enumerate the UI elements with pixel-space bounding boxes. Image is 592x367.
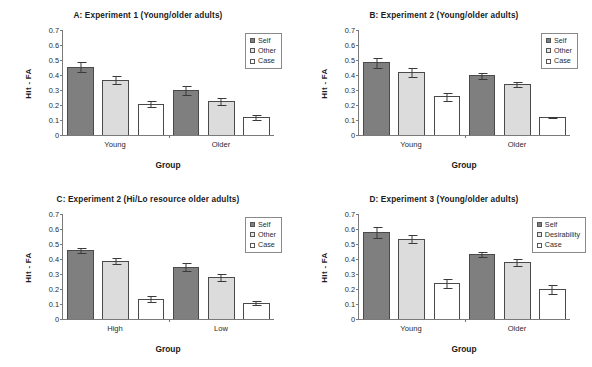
y-tick-label: 0.2 xyxy=(345,101,355,110)
y-tick-mark xyxy=(60,135,63,136)
error-bar xyxy=(221,274,222,282)
x-axis-label: Group xyxy=(358,344,570,354)
y-tick-mark xyxy=(60,319,63,320)
bar-other-young xyxy=(398,72,425,135)
y-tick-label: 0.7 xyxy=(345,210,355,219)
error-bar xyxy=(256,115,257,121)
x-tick-label: Young xyxy=(358,324,464,333)
bar-other-low xyxy=(208,277,235,319)
bar-other-older xyxy=(504,84,531,135)
y-tick-label: 0.7 xyxy=(345,26,355,35)
bar-slot xyxy=(429,30,464,135)
legend-swatch-other-icon xyxy=(250,232,255,237)
legend-item-self[interactable]: Self xyxy=(537,221,580,228)
y-tick-label: 0.6 xyxy=(345,41,355,50)
legend-item-other[interactable]: Other xyxy=(250,231,276,238)
legend-label: Case xyxy=(554,57,571,64)
error-bar xyxy=(411,235,412,244)
chart-panel-c: C: Experiment 2 (Hi/Lo resource older ad… xyxy=(0,184,296,367)
error-bar xyxy=(186,263,187,271)
y-tick-label: 0.7 xyxy=(49,210,59,219)
error-bar xyxy=(552,285,553,295)
x-tick-label: Older xyxy=(168,140,274,149)
error-bar xyxy=(446,279,447,288)
bar-group-young xyxy=(359,30,465,135)
legend-item-case[interactable]: Case xyxy=(546,57,572,64)
legend-item-self[interactable]: Self xyxy=(250,37,276,44)
bar-other-older xyxy=(208,101,235,135)
plot-area: 0.70.60.50.40.30.20.10 xyxy=(62,30,274,136)
x-tick-label: Older xyxy=(464,324,570,333)
bar-self-young xyxy=(363,232,390,319)
legend-item-self[interactable]: Self xyxy=(250,221,276,228)
bar-case-low xyxy=(243,303,270,320)
error-bar xyxy=(256,301,257,306)
bar-slot xyxy=(465,30,500,135)
error-bar xyxy=(115,76,116,85)
y-tick-label: 0.4 xyxy=(345,71,355,80)
panel-title: A: Experiment 1 (Young/older adults) xyxy=(0,11,296,20)
y-tick-label: 0 xyxy=(55,131,59,140)
y-tick-label: 0.4 xyxy=(345,255,355,264)
legend-item-self[interactable]: Self xyxy=(546,37,572,44)
legend-item-other[interactable]: Other xyxy=(250,47,276,54)
y-tick-mark xyxy=(356,319,359,320)
y-tick-label: 0 xyxy=(351,131,355,140)
bar-slot xyxy=(394,214,429,319)
legend-label: Self xyxy=(554,37,566,44)
bar-slot xyxy=(133,30,168,135)
y-tick-label: 0.1 xyxy=(345,116,355,125)
legend-item-case[interactable]: Case xyxy=(250,57,276,64)
legend-swatch-other-icon xyxy=(250,48,255,53)
y-axis-label-text: Hit - FA xyxy=(24,68,33,98)
y-axis-label: Hit - FA xyxy=(318,30,330,136)
legend-item-desirability[interactable]: Desirability xyxy=(537,231,580,238)
legend-label: Other xyxy=(554,47,572,54)
legend-label: Case xyxy=(258,241,275,248)
legend-swatch-case-icon xyxy=(250,59,255,64)
chart-legend: SelfOtherCase xyxy=(245,33,282,69)
bar-self-young xyxy=(363,62,390,135)
bar-group-high xyxy=(63,214,169,319)
y-tick-label: 0.5 xyxy=(49,240,59,249)
legend-item-other[interactable]: Other xyxy=(546,47,572,54)
legend-swatch-case-icon xyxy=(250,243,255,248)
legend-swatch-self-icon xyxy=(546,38,551,43)
bar-other-high xyxy=(102,261,129,320)
y-tick-label: 0.5 xyxy=(49,56,59,65)
group-separator-tick xyxy=(169,319,170,322)
y-tick-label: 0.3 xyxy=(345,270,355,279)
error-bar xyxy=(517,82,518,88)
legend-label: Case xyxy=(258,57,275,64)
figure-panel-grid: A: Experiment 1 (Young/older adults)Hit … xyxy=(0,0,592,367)
y-axis-label: Hit - FA xyxy=(22,214,34,320)
legend-label: Desirability xyxy=(545,231,580,238)
y-tick-label: 0 xyxy=(351,315,355,324)
legend-item-case[interactable]: Case xyxy=(537,241,580,248)
bar-slot xyxy=(500,214,535,319)
x-tick-labels: YoungOlder xyxy=(358,140,570,149)
legend-label: Self xyxy=(258,37,270,44)
bar-container xyxy=(63,214,274,319)
plot-area: 0.70.60.50.40.30.20.10 xyxy=(358,30,570,136)
x-tick-label: Older xyxy=(464,140,570,149)
y-tick-label: 0.4 xyxy=(49,255,59,264)
legend-swatch-self-icon xyxy=(537,222,542,227)
panel-title: D: Experiment 3 (Young/older adults) xyxy=(296,195,592,204)
error-bar xyxy=(482,252,483,259)
chart-panel-b: B: Experiment 2 (Young/older adults)Hit … xyxy=(296,0,592,184)
y-tick-mark xyxy=(356,135,359,136)
bar-slot xyxy=(394,30,429,135)
legend-swatch-case-icon xyxy=(537,243,542,248)
y-tick-label: 0.4 xyxy=(49,71,59,80)
bar-case-young xyxy=(434,283,461,319)
x-tick-labels: YoungOlder xyxy=(62,140,274,149)
bar-slot xyxy=(359,214,394,319)
error-bar xyxy=(376,227,377,240)
y-tick-label: 0.1 xyxy=(49,300,59,309)
plot-area: 0.70.60.50.40.30.20.10 xyxy=(62,214,274,320)
legend-item-case[interactable]: Case xyxy=(250,241,276,248)
bar-self-low xyxy=(173,267,200,320)
bar-slot xyxy=(500,30,535,135)
x-tick-label: High xyxy=(62,324,168,333)
